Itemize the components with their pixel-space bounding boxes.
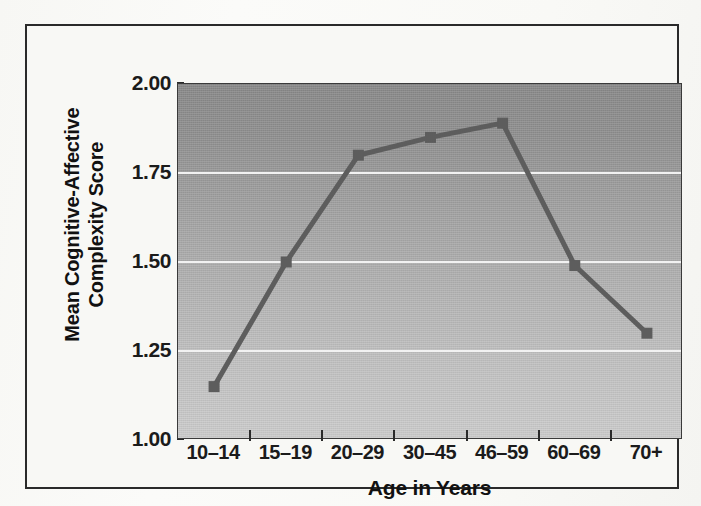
x-axis-tick-label: 60–69 — [538, 442, 610, 462]
y-axis-tick-label: 1.25 — [93, 339, 171, 360]
x-axis-tick-mark — [610, 430, 612, 441]
data-point-marker — [209, 381, 220, 392]
y-axis-tick-labels: 1.001.251.501.752.00 — [89, 83, 171, 439]
x-axis-tick-mark — [249, 430, 251, 441]
figure-root: Mean Cognitive-Affective Complexity Scor… — [0, 0, 701, 506]
data-point-marker — [569, 260, 580, 271]
x-axis-tick-mark — [538, 430, 540, 441]
x-axis-tick-mark — [321, 430, 323, 441]
x-axis-tick-label: 15–19 — [249, 442, 321, 462]
data-point-marker — [281, 257, 292, 268]
x-axis-tick-label: 20–29 — [321, 442, 393, 462]
y-axis-title-line-1: Mean Cognitive-Affective — [61, 55, 85, 395]
data-point-marker — [425, 132, 436, 143]
y-axis-tick-label: 1.75 — [93, 161, 171, 182]
data-point-marker — [497, 118, 508, 129]
x-axis-tick-label: 70+ — [610, 442, 682, 462]
y-axis-tick-label: 1.50 — [93, 250, 171, 271]
x-axis-tick-labels: 10–1415–1920–2930–4546–5960–6970+ — [177, 442, 682, 470]
x-axis-title: Age in Years — [177, 476, 682, 500]
y-axis-tick-label: 1.00 — [93, 428, 171, 449]
plot-area — [177, 83, 682, 439]
x-axis-tick-label: 30–45 — [393, 442, 465, 462]
x-axis-tick-mark — [466, 430, 468, 441]
data-point-marker — [353, 150, 364, 161]
data-point-marker — [641, 328, 652, 339]
x-axis-tick-mark — [393, 430, 395, 441]
x-axis-tick-label: 46–59 — [466, 442, 538, 462]
data-series-line — [178, 84, 682, 439]
figure-frame: Mean Cognitive-Affective Complexity Scor… — [25, 24, 679, 489]
x-axis-tick-label: 10–14 — [177, 442, 249, 462]
y-axis-tick-label: 2.00 — [93, 72, 171, 93]
